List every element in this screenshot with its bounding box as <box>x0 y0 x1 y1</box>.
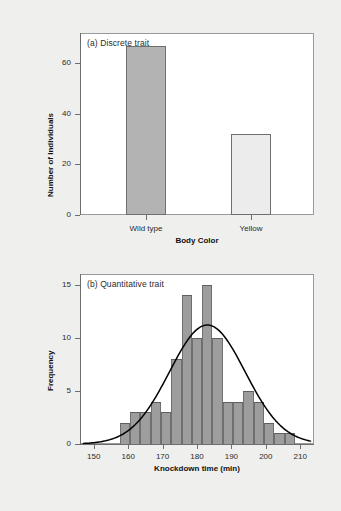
hist-bar-189 <box>223 402 233 445</box>
bar-yellow <box>231 134 271 215</box>
panel-a-xtick-yellow <box>251 215 252 220</box>
hist-bar-192 <box>233 402 243 445</box>
panel-b-xtick-label-200: 200 <box>249 452 283 461</box>
panel-a-ytick-20 <box>75 164 80 165</box>
panel-a-plot-area <box>80 33 314 215</box>
panel-b-xtick-150 <box>94 444 95 449</box>
panel-b-xtick-label-210: 210 <box>283 452 317 461</box>
panel-b-xtick-label-170: 170 <box>146 452 180 461</box>
panel-b-xtick-190 <box>231 444 232 449</box>
panel-a-xtick-label-yellow: Yellow <box>221 224 281 233</box>
panel-a-ytick-60 <box>75 63 80 64</box>
hist-bar-168 <box>151 402 161 445</box>
panel-b-ytick-15 <box>75 285 80 286</box>
panel-a-ytick-0 <box>75 215 80 216</box>
figure-root: (a) Discrete trait 0 20 40 60 Number of … <box>0 0 341 511</box>
hist-bar-165 <box>140 412 150 444</box>
panel-b-ytick-label-10: 10 <box>52 333 71 342</box>
hist-bar-180 <box>192 338 202 444</box>
panel-b-label: (b) Quantitative trait <box>87 279 164 289</box>
panel-a-x-axis-title: Body Color <box>157 236 237 245</box>
hist-bar-171 <box>161 412 171 444</box>
hist-bar-177 <box>182 295 192 444</box>
panel-b-ytick-label-0: 0 <box>52 439 71 448</box>
panel-b-xtick-170 <box>163 444 164 449</box>
hist-bar-207 <box>285 433 295 444</box>
hist-bar-201 <box>264 423 274 444</box>
panel-b-xtick-label-180: 180 <box>180 452 214 461</box>
panel-a-ytick-label-60: 60 <box>52 58 71 67</box>
hist-bar-195 <box>243 391 253 444</box>
panel-b-ytick-5 <box>75 391 80 392</box>
hist-bar-162 <box>130 412 140 444</box>
panel-b-xtick-200 <box>266 444 267 449</box>
panel-discrete-trait: (a) Discrete trait 0 20 40 60 Number of … <box>0 0 341 256</box>
hist-bar-183 <box>202 285 212 444</box>
panel-b-ytick-label-15: 15 <box>52 280 71 289</box>
hist-bar-159 <box>120 423 130 444</box>
panel-b-x-axis-title: Knockdown time (min) <box>137 464 257 473</box>
panel-b-xtick-180 <box>197 444 198 449</box>
bar-wild-type-rendered <box>126 46 166 215</box>
panel-a-y-axis-title: Number of Individuals <box>46 113 55 197</box>
hist-bar-186 <box>212 338 222 444</box>
panel-a-ytick-label-0: 0 <box>52 210 71 219</box>
panel-b-xtick-label-160: 160 <box>111 452 145 461</box>
panel-a-ytick-40 <box>75 114 80 115</box>
panel-b-xtick-label-190: 190 <box>214 452 248 461</box>
hist-bar-174 <box>171 359 181 444</box>
panel-b-xtick-160 <box>128 444 129 449</box>
panel-a-xtick-label-wild-type: Wild type <box>116 224 176 233</box>
panel-b-y-axis <box>80 274 81 444</box>
hist-bar-204 <box>274 433 284 444</box>
panel-b-y-axis-title: Frequency <box>46 351 55 391</box>
panel-a-xtick-wild-type <box>146 215 147 220</box>
hist-bar-198 <box>254 402 264 445</box>
panel-b-xtick-label-150: 150 <box>77 452 111 461</box>
panel-b-xtick-210 <box>300 444 301 449</box>
panel-a-y-axis <box>80 33 81 215</box>
panel-quantitative-trait: (b) Quantitative trait 0 5 10 15 Frequen… <box>0 256 341 511</box>
panel-b-ytick-10 <box>75 338 80 339</box>
